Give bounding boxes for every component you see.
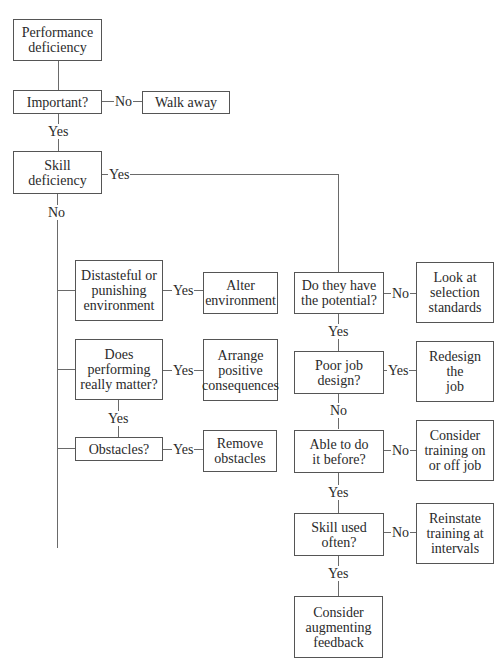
node-obstacles: Obstacles? xyxy=(75,437,163,461)
node-distasteful-environment: Distasteful or punishing environment xyxy=(75,260,163,321)
edge-label-matter-yes-right: Yes xyxy=(172,363,194,378)
connector-line xyxy=(57,290,75,291)
edge-label-skill-yes: Yes xyxy=(108,167,130,182)
node-consider-training: Consider training on or off job xyxy=(416,420,494,481)
node-performance-deficiency: Performance deficiency xyxy=(13,19,102,61)
node-look-at-selection-standards: Look at selection standards xyxy=(416,262,494,323)
node-skill-deficiency: Skill deficiency xyxy=(13,151,102,194)
node-remove-obstacles: Remove obstacles xyxy=(203,430,277,472)
connector-line xyxy=(338,174,339,282)
node-able-to-do-it-before: Able to do it before? xyxy=(294,430,384,473)
node-reinstate-training: Reinstate training at intervals xyxy=(416,503,494,564)
node-alter-environment: Alter environment xyxy=(203,272,278,314)
node-walk-away: Walk away xyxy=(142,91,230,114)
edge-label-important-yes: Yes xyxy=(47,124,69,139)
connector-line xyxy=(57,193,58,548)
edge-label-skill-no: No xyxy=(47,205,66,220)
edge-label-skill-used-no: No xyxy=(391,525,410,540)
connector-line xyxy=(101,174,339,175)
edge-label-potential-yes: Yes xyxy=(327,324,349,339)
edge-label-job-design-yes: Yes xyxy=(387,363,409,378)
edge-label-skill-used-yes: Yes xyxy=(327,566,349,581)
node-important: Important? xyxy=(13,90,102,114)
edge-label-able-no: No xyxy=(391,443,410,458)
flowchart-canvas: No Yes Yes No Yes Yes Yes Yes No Yes Yes… xyxy=(0,0,502,663)
node-redesign-the-job: Redesign the job xyxy=(416,341,494,402)
connector-line xyxy=(57,448,75,449)
connector-line xyxy=(58,60,59,90)
node-arrange-positive-consequences: Arrange positive consequences xyxy=(203,339,278,401)
edge-label-important-no: No xyxy=(114,94,133,109)
edge-label-matter-yes-down: Yes xyxy=(107,411,129,426)
connector-line xyxy=(57,369,75,370)
edge-label-job-design-no: No xyxy=(329,403,348,418)
edge-label-potential-no: No xyxy=(391,286,410,301)
edge-label-able-yes: Yes xyxy=(327,485,349,500)
node-poor-job-design: Poor job design? xyxy=(294,351,384,394)
node-do-they-have-potential: Do they have the potential? xyxy=(294,272,384,314)
node-does-performing-matter: Does performing really matter? xyxy=(75,339,163,400)
edge-label-obstacles-yes: Yes xyxy=(172,442,194,457)
node-skill-used-often: Skill used often? xyxy=(294,513,384,556)
edge-label-distasteful-yes: Yes xyxy=(172,283,194,298)
node-consider-augmenting-feedback: Consider augmenting feedback xyxy=(294,596,383,658)
